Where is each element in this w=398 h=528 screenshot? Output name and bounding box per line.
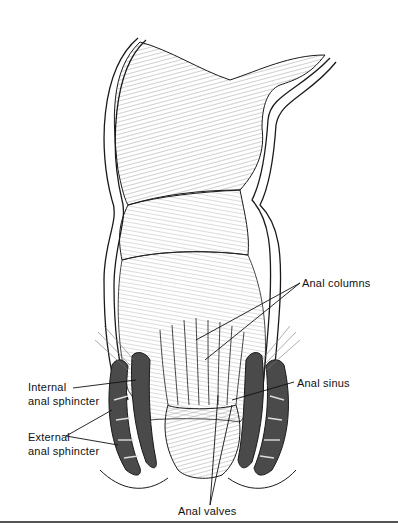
external-sphincter-line1: External xyxy=(28,430,99,444)
internal-sphincter-label: Internal anal sphincter xyxy=(28,380,99,408)
external-sphincter-line2: anal sphincter xyxy=(28,444,99,458)
internal-sphincter-line1: Internal xyxy=(28,380,99,394)
anal-valves-label: Anal valves xyxy=(178,504,236,518)
anal-columns-label: Anal columns xyxy=(302,276,370,290)
anal-canal xyxy=(165,405,240,478)
anal-sinus-label: Anal sinus xyxy=(297,376,350,390)
anatomy-diagram: Internal anal sphincter External anal sp… xyxy=(0,0,398,528)
external-sphincter-label: External anal sphincter xyxy=(28,430,99,458)
internal-sphincter-line2: anal sphincter xyxy=(28,394,99,408)
